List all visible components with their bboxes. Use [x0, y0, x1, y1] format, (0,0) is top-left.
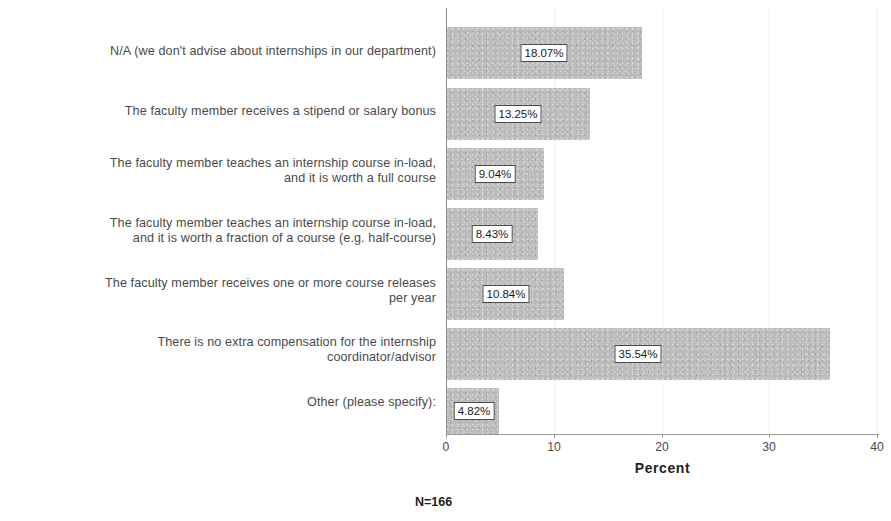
bar-value-label: 4.82% [454, 402, 495, 420]
category-label: There is no extra compensation for the i… [0, 335, 436, 365]
x-tick-mark [446, 434, 447, 438]
bar-value-label: 18.07% [520, 44, 567, 62]
x-tick-label: 30 [762, 440, 776, 454]
sample-size-annotation: N=166 [0, 495, 879, 509]
x-tick-label: 40 [870, 440, 884, 454]
gridline-40 [877, 8, 878, 434]
x-tick-label: 0 [443, 440, 450, 454]
bar-value-label: 10.84% [482, 285, 529, 303]
plot-area: 18.07% 13.25% 9.04% 8.43% 10.84% 35.54% … [446, 8, 879, 435]
category-label: The faculty member receives one or more … [0, 276, 436, 306]
category-label: The faculty member receives a stipend or… [0, 104, 436, 119]
x-tick-mark [769, 434, 770, 438]
category-label: Other (please specify): [0, 395, 436, 410]
bar-value-label: 13.25% [494, 105, 541, 123]
bar-value-label: 35.54% [614, 345, 661, 363]
x-tick-label: 10 [547, 440, 561, 454]
category-label: The faculty member teaches an internship… [0, 156, 436, 186]
bar-value-label: 8.43% [472, 225, 513, 243]
x-axis-title: Percent [446, 460, 879, 476]
bar-value-label: 9.04% [475, 165, 516, 183]
category-label: The faculty member teaches an internship… [0, 216, 436, 246]
x-tick-mark [877, 434, 878, 438]
x-tick-label: 20 [655, 440, 669, 454]
horizontal-bar-chart: N/A (we don't advise about internships i… [0, 0, 891, 521]
x-tick-mark [662, 434, 663, 438]
x-tick-mark [554, 434, 555, 438]
category-label: N/A (we don't advise about internships i… [0, 44, 436, 59]
